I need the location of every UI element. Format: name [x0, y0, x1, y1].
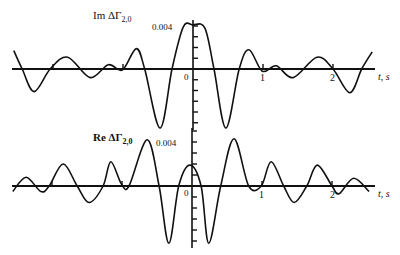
im-x-tick-label-2: 2: [330, 72, 335, 83]
im-x-axis-label: t, s: [378, 71, 390, 82]
re-title: Re ΔΓ2,0: [93, 131, 132, 146]
im-origin-label: 0: [184, 72, 189, 82]
re-panel: Re ΔΓ2,0 0.004 0 1 2 t, s: [12, 128, 390, 248]
im-x-tick-label-1: 1: [260, 72, 265, 83]
im-y-tick-label: 0.004: [152, 22, 173, 32]
im-title: Im ΔΓ2,0: [93, 9, 131, 24]
re-x-tick-label-1: 1: [259, 189, 264, 200]
chart-canvas: Im ΔΓ2,0 0.004 0 1 2 t, s Re ΔΓ2,0 0.004…: [0, 0, 400, 255]
re-x-tick-label-2: 2: [330, 189, 335, 200]
im-panel: Im ΔΓ2,0 0.004 0 1 2 t, s: [12, 9, 390, 130]
re-curve: [13, 139, 369, 244]
re-y-tick-label: 0.004: [156, 138, 177, 148]
re-x-axis-label: t, s: [378, 188, 390, 199]
re-origin-label: 0: [184, 188, 189, 198]
